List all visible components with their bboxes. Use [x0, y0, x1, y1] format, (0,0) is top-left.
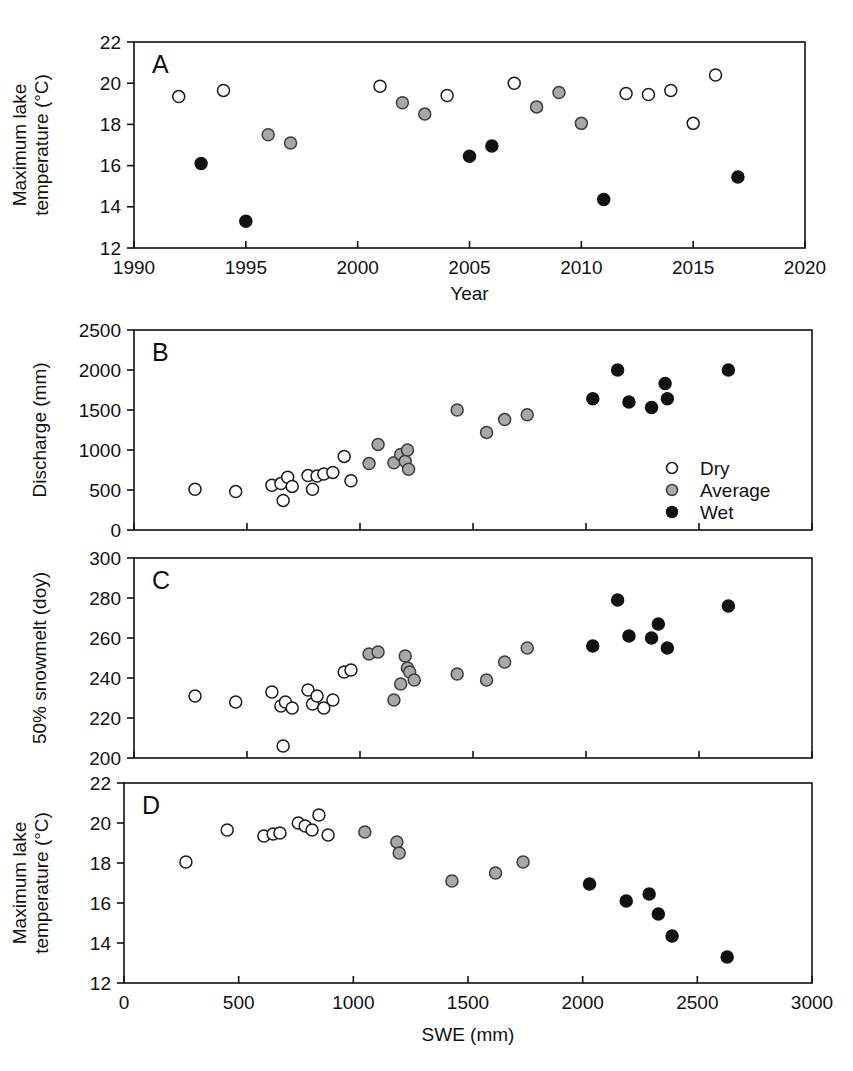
data-point [464, 150, 476, 162]
y-ticklabel-b-2000: 2000 [79, 360, 121, 381]
data-point [587, 640, 599, 652]
data-point [217, 84, 229, 96]
data-point [652, 618, 664, 630]
panel-c-frame [134, 558, 812, 758]
data-point [327, 466, 339, 478]
legend-marker-wet [667, 507, 678, 518]
y-ticklabel-d-14: 14 [90, 933, 112, 954]
ylabel-a: Maximum laketemperature (°C) [9, 74, 52, 216]
data-point [575, 117, 587, 129]
legend-label-dry: Dry [700, 458, 730, 479]
x-ticklabel-d-1000: 1000 [332, 992, 374, 1013]
legend-marker-dry [667, 463, 678, 474]
panel-letter-a: A [152, 50, 169, 78]
y-ticklabel-b-0: 0 [110, 520, 121, 541]
panel-a-frame [134, 42, 805, 248]
data-point [612, 364, 624, 376]
data-point [486, 140, 498, 152]
data-point [266, 686, 278, 698]
series-a-dry [173, 69, 722, 129]
data-point [311, 690, 323, 702]
y-ticklabel-c-280: 280 [89, 588, 121, 609]
data-point [620, 88, 632, 100]
data-point [363, 458, 375, 470]
data-point [388, 694, 400, 706]
y-ticklabel-b-2500: 2500 [79, 320, 121, 341]
ylabel-d-line1: Maximum lake [9, 822, 30, 944]
data-point [395, 678, 407, 690]
legend-marker-average [667, 485, 678, 496]
data-point [322, 829, 334, 841]
series-d-average [359, 826, 529, 887]
data-point [451, 668, 463, 680]
data-point [372, 438, 384, 450]
data-point [307, 483, 319, 495]
y-ticklabel-d-16: 16 [90, 893, 111, 914]
data-point [240, 215, 252, 227]
data-point [642, 89, 654, 101]
y-ticklabel-d-12: 12 [90, 973, 111, 994]
data-point [584, 878, 596, 890]
legend: DryAverageWet [667, 458, 771, 523]
x-ticklabel-a-2000: 2000 [337, 257, 379, 278]
data-point [359, 826, 371, 838]
x-ticklabel-a-1995: 1995 [225, 257, 267, 278]
data-point [481, 674, 493, 686]
data-point [722, 364, 734, 376]
data-point [521, 409, 533, 421]
data-point [710, 69, 722, 81]
data-point [230, 486, 242, 498]
y-ticklabel-b-1500: 1500 [79, 400, 121, 421]
xlabel-d: SWE (mm) [422, 1024, 515, 1045]
data-point [408, 674, 420, 686]
data-point [286, 480, 298, 492]
data-point [666, 930, 678, 942]
x-ticklabel-d-2000: 2000 [562, 992, 604, 1013]
data-point [221, 824, 233, 836]
x-ticklabel-d-0: 0 [119, 992, 130, 1013]
series-c-dry [189, 664, 357, 752]
data-point [195, 158, 207, 170]
data-point [327, 694, 339, 706]
y-ticklabel-b-1000: 1000 [79, 440, 121, 461]
figure-container: 1214161820221990199520002005201020152020… [0, 0, 853, 1071]
y-ticklabel-c-260: 260 [89, 628, 121, 649]
data-point [396, 97, 408, 109]
y-ticklabel-a-14: 14 [100, 196, 122, 217]
data-point [393, 847, 405, 859]
y-ticklabel-c-220: 220 [89, 708, 121, 729]
y-ticklabel-a-18: 18 [100, 114, 121, 135]
x-ticklabel-d-1500: 1500 [447, 992, 489, 1013]
ylabel-c: 50% snowmelt (doy) [29, 572, 50, 744]
panel-d: 121416182022050010001500200025003000D [90, 773, 833, 1014]
data-point [173, 91, 185, 103]
data-point [508, 77, 520, 89]
data-point [345, 475, 357, 487]
data-point [180, 856, 192, 868]
data-point [652, 908, 664, 920]
data-point [553, 86, 565, 98]
data-point [531, 101, 543, 113]
data-point [661, 393, 673, 405]
data-point [499, 656, 511, 668]
y-ticklabel-c-300: 300 [89, 548, 121, 569]
ylabel-d: Maximum laketemperature (°C) [9, 812, 52, 954]
y-ticklabel-c-200: 200 [89, 748, 121, 769]
panel-a: 1214161820221990199520002005201020152020… [100, 32, 826, 279]
data-point [285, 137, 297, 149]
data-point [189, 690, 201, 702]
ylabel-d-line2: temperature (°C) [31, 812, 52, 954]
data-point [338, 450, 350, 462]
series-c-average [363, 642, 533, 706]
data-point [499, 414, 511, 426]
data-point [612, 594, 624, 606]
panel-letter-c: C [152, 566, 170, 594]
data-point [306, 824, 318, 836]
xlabel-a: Year [450, 283, 489, 304]
series-d-dry [180, 809, 334, 868]
data-point [687, 117, 699, 129]
series-b-average [363, 404, 533, 475]
data-point [262, 129, 274, 141]
data-point [274, 827, 286, 839]
series-b-wet [587, 364, 735, 414]
